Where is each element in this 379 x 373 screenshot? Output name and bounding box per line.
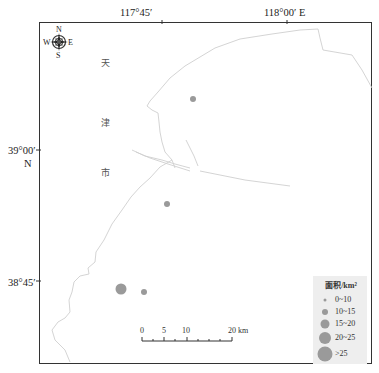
point-marker — [190, 96, 196, 102]
compass-north-label: N — [56, 25, 62, 34]
legend-label-15-20: 15~20 — [335, 319, 355, 328]
axis-ticks — [36, 20, 287, 281]
legend-label-10-15: 10~15 — [335, 307, 355, 316]
scale-label-20-km: 20 km — [228, 326, 248, 335]
compass-west-label: W — [43, 38, 51, 47]
scale-label-0: 0 — [140, 326, 144, 335]
region-label-char-3: 市 — [101, 166, 110, 179]
compass-east-label: E — [68, 38, 73, 47]
point-marker — [164, 201, 170, 207]
region-label-char-2: 津 — [101, 116, 110, 129]
point-marker — [116, 284, 127, 295]
legend-circle-15-20 — [321, 320, 330, 329]
legend-label-20-25: 20~25 — [335, 333, 355, 342]
compass-rose-icon — [50, 33, 68, 51]
legend: 面积/km² 0~10 10~15 15~20 20~25 >25 — [313, 276, 367, 364]
scale-label-10: 10 — [182, 326, 190, 335]
legend-label-0-10: 0~10 — [335, 295, 351, 304]
region-label-char-1: 天 — [101, 56, 110, 69]
scale-bar — [142, 337, 232, 341]
data-points — [116, 96, 197, 295]
scale-label-5: 5 — [162, 326, 166, 335]
legend-circle-10-15 — [322, 309, 328, 315]
legend-circle-gt-25 — [318, 347, 333, 362]
legend-circle-20-25 — [319, 332, 331, 344]
compass-south-label: S — [56, 51, 60, 60]
legend-label-gt-25: >25 — [335, 349, 348, 358]
legend-circle-0-10 — [324, 299, 327, 302]
point-marker — [141, 289, 147, 295]
